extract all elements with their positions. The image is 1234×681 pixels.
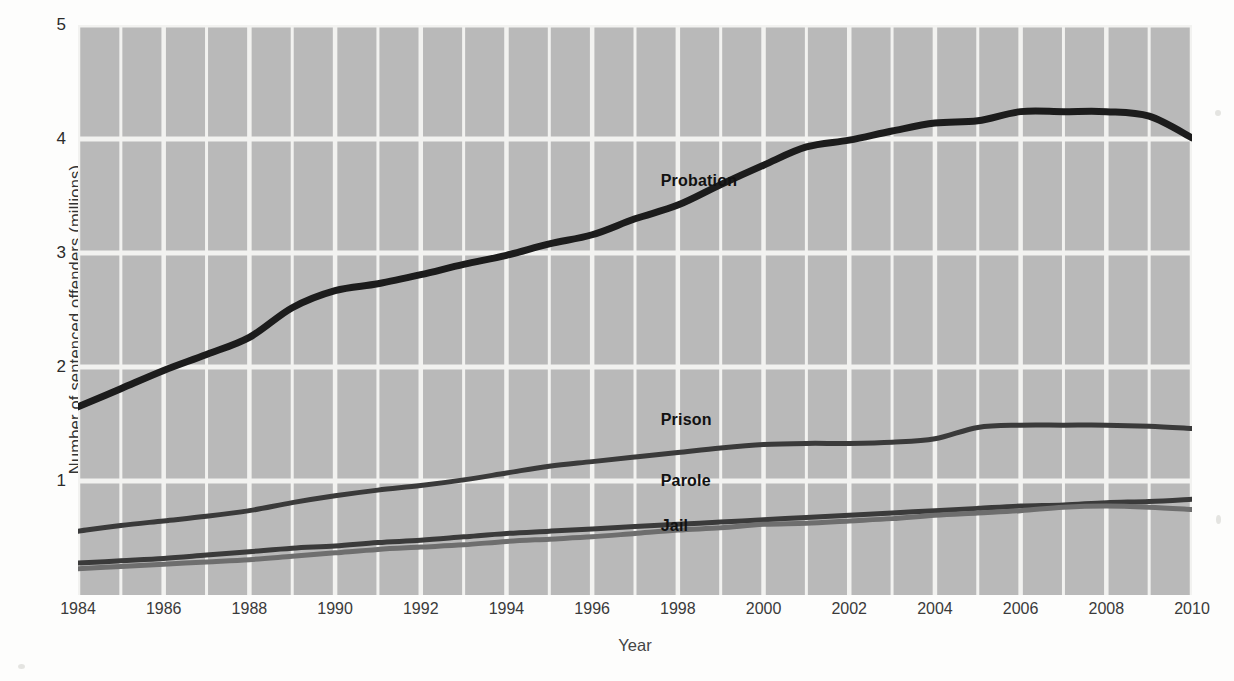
scan-artifact	[18, 664, 25, 669]
y-tick-label: 1	[26, 471, 66, 491]
y-tick-label: 4	[26, 129, 66, 149]
x-tick-label: 1988	[204, 600, 294, 618]
series-label-probation: Probation	[661, 172, 737, 190]
scan-artifact	[1215, 110, 1221, 116]
y-tick-label: 2	[26, 357, 66, 377]
y-tick-label: 3	[26, 243, 66, 263]
x-tick-label: 2008	[1061, 600, 1151, 618]
x-tick-label: 1984	[33, 600, 123, 618]
series-label-jail: Jail	[661, 517, 689, 535]
x-tick-label: 2006	[976, 600, 1066, 618]
chart-figure: Number of sentenced offenders (millions)…	[0, 0, 1234, 681]
series-label-prison: Prison	[661, 411, 712, 429]
x-tick-label: 2010	[1147, 600, 1234, 618]
plot-area	[78, 25, 1192, 595]
x-tick-label: 1998	[633, 600, 723, 618]
x-tick-label: 1986	[119, 600, 209, 618]
x-tick-label: 1994	[461, 600, 551, 618]
scan-artifact	[1216, 515, 1221, 524]
x-tick-label: 2000	[719, 600, 809, 618]
x-tick-label: 1990	[290, 600, 380, 618]
chart-canvas	[78, 25, 1192, 595]
series-label-parole: Parole	[661, 472, 711, 490]
x-tick-label: 1992	[376, 600, 466, 618]
x-axis-title: Year	[78, 636, 1192, 655]
x-tick-label: 1996	[547, 600, 637, 618]
x-tick-label: 2002	[804, 600, 894, 618]
x-tick-label: 2004	[890, 600, 980, 618]
y-tick-label: 5	[26, 15, 66, 35]
